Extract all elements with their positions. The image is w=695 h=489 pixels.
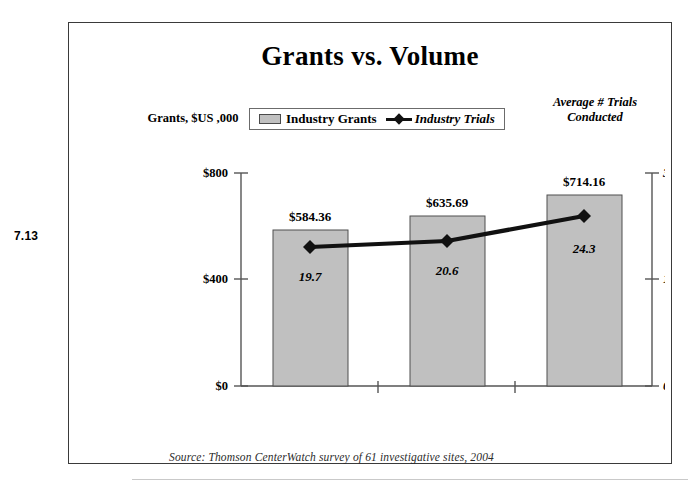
bar-value-label: $714.16 <box>563 174 606 189</box>
right-axis: 30 15 0 <box>645 166 665 393</box>
page-divider <box>132 479 688 480</box>
line-value-label: 24.3 <box>572 241 596 256</box>
left-axis: $800 $400 $0 <box>203 166 248 393</box>
y2-tick-label: 0 <box>663 379 665 393</box>
chart-legend: Industry Grants Industry Trials <box>249 108 505 130</box>
legend-item-industry-grants: Industry Grants <box>259 111 377 127</box>
y-tick-label: $800 <box>203 166 228 180</box>
legend-item-label: Industry Trials <box>415 111 495 127</box>
y-tick-label: $400 <box>203 272 228 286</box>
line-diamond-icon <box>386 113 412 125</box>
bar-2004 <box>547 195 622 386</box>
figure-number: 7.13 <box>14 229 38 243</box>
legend-item-industry-trials: Industry Trials <box>386 111 495 127</box>
source-note: Source: Thomson CenterWatch survey of 61… <box>169 451 494 463</box>
y2-tick-label: 15 <box>663 272 665 286</box>
page-title: Grants vs. Volume <box>69 41 671 72</box>
bar-value-label: $635.69 <box>426 195 469 210</box>
right-axis-title-line2: Conducted <box>525 110 665 125</box>
y-tick-label: $0 <box>216 379 229 393</box>
right-axis-title-line1: Average # Trials <box>525 95 665 110</box>
figure-frame: Grants vs. Volume Grants, $US ,000 Avera… <box>68 22 672 464</box>
bar-value-label: $584.36 <box>289 209 332 224</box>
bar-swatch-icon <box>259 114 281 124</box>
line-value-label: 19.7 <box>299 269 322 284</box>
right-axis-title: Average # Trials Conducted <box>525 95 665 125</box>
line-value-label: 20.6 <box>435 263 459 278</box>
chart-plot-area: $800 $400 $0 30 15 0 <box>173 141 665 393</box>
left-axis-title: Grants, $US ,000 <box>123 111 263 126</box>
y2-tick-label: 30 <box>662 166 665 180</box>
legend-item-label: Industry Grants <box>286 111 377 127</box>
